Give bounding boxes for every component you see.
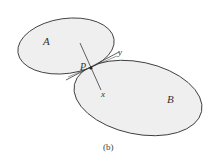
body-b-label: B — [167, 93, 174, 105]
figure-caption: (b) — [103, 142, 114, 152]
tangent-axis-label: y — [117, 47, 122, 57]
contact-diagram: A B P y x (b) — [0, 0, 216, 160]
contact-point-label: P — [79, 61, 86, 72]
normal-axis-label: x — [100, 89, 105, 99]
contact-point-dot — [89, 66, 92, 69]
body-a-label: A — [42, 35, 50, 47]
